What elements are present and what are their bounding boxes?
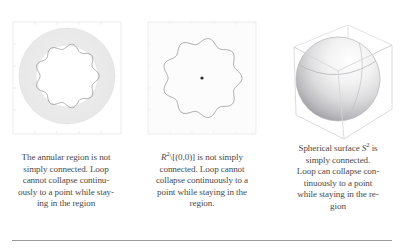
annulus-svg bbox=[7, 14, 127, 147]
sphere-plot bbox=[271, 8, 404, 153]
panel-row bbox=[0, 8, 404, 153]
math-suffix: is bbox=[369, 143, 377, 153]
caption-line: connected. Loop cannot bbox=[160, 164, 245, 174]
sphere-surface bbox=[296, 37, 380, 121]
caption-line: collapse continuously to a bbox=[156, 175, 248, 185]
caption-annulus: The annular region is not simply connect… bbox=[0, 152, 132, 213]
horizontal-rule bbox=[12, 240, 392, 241]
caption-text: Spherical surface bbox=[298, 143, 361, 153]
caption-punctured-plane: R2\[(0,0)] is not simply connected. Loop… bbox=[136, 152, 268, 213]
puncture-point-dot bbox=[200, 76, 203, 79]
caption-line: while staying in the re- bbox=[297, 189, 378, 199]
annular-region bbox=[7, 14, 127, 147]
math-suffix: \[(0,0)] bbox=[170, 152, 195, 162]
caption-line: is not simply bbox=[195, 152, 243, 162]
annulus-plot bbox=[0, 8, 133, 153]
caption-line: ously to a point while stay- bbox=[18, 187, 114, 197]
sphere-svg bbox=[274, 11, 402, 151]
caption-line: Loop can collapse con- bbox=[297, 166, 379, 176]
caption-sphere: Spherical surface S2 is simply connected… bbox=[272, 143, 404, 213]
punctured-plane-svg bbox=[142, 14, 262, 147]
caption-line: tinuously to a point bbox=[304, 178, 372, 188]
figure-simply-connected-regions: The annular region is not simply connect… bbox=[0, 0, 404, 250]
caption-line: The annular region is not bbox=[22, 152, 111, 162]
caption-line: simply connected. bbox=[306, 155, 370, 165]
caption-line: ing in the region bbox=[37, 198, 95, 208]
caption-line: region. bbox=[190, 198, 215, 208]
caption-row: The annular region is not simply connect… bbox=[0, 152, 404, 213]
punctured-plane-plot bbox=[136, 8, 269, 153]
caption-line: cannot collapse continu- bbox=[23, 175, 110, 185]
caption-line: gion bbox=[330, 201, 346, 211]
caption-line: simply connected. Loop bbox=[23, 164, 108, 174]
caption-line: point while staying in the bbox=[157, 187, 247, 197]
